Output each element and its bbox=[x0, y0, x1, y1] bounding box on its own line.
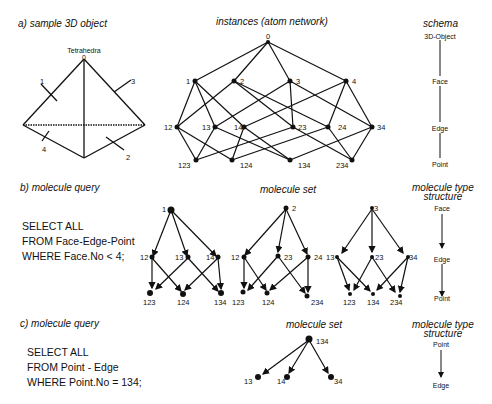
face-label-2: 2 bbox=[126, 153, 130, 162]
node-label: 134 bbox=[367, 298, 380, 307]
node-label: 13 bbox=[175, 253, 183, 262]
node-label: 23 bbox=[375, 253, 383, 262]
node-label: 234 bbox=[336, 161, 349, 170]
type-level: Face bbox=[434, 205, 450, 212]
type-level: Edge bbox=[434, 256, 450, 264]
schema-level: Edge bbox=[432, 125, 448, 133]
node-label: 123 bbox=[343, 298, 356, 307]
node-label: 3 bbox=[374, 204, 378, 213]
node-label: 23 bbox=[284, 253, 292, 262]
node-label: 23 bbox=[298, 123, 306, 132]
node-label: 1 bbox=[162, 205, 166, 214]
node-label: 134 bbox=[316, 337, 329, 346]
node-label: 2 bbox=[240, 77, 244, 86]
node-label: 3 bbox=[296, 77, 300, 86]
node-label: 13 bbox=[244, 377, 252, 386]
node-label: 14 bbox=[234, 123, 242, 132]
node-label: 13 bbox=[202, 123, 210, 132]
molecule-b-edges bbox=[152, 209, 408, 293]
node-label: 124 bbox=[262, 298, 275, 307]
type-level: Edge bbox=[433, 382, 449, 390]
apex-label: 0 bbox=[82, 54, 86, 61]
node-label: 4 bbox=[352, 77, 356, 86]
node-label: 13 bbox=[326, 253, 334, 262]
diagram-canvas: Tetrahedra 0 1 2 3 4 bbox=[0, 0, 492, 404]
node-label: 34 bbox=[334, 377, 342, 386]
schema-level: Face bbox=[432, 78, 448, 85]
node-label: 14 bbox=[206, 253, 214, 262]
face-label-4: 4 bbox=[42, 145, 46, 154]
node-label: 2 bbox=[292, 204, 296, 213]
node-label: 124 bbox=[240, 161, 253, 170]
node-label: 124 bbox=[177, 298, 190, 307]
tetrahedron bbox=[23, 59, 145, 158]
node-label: 123 bbox=[178, 161, 191, 170]
node-label: 14 bbox=[277, 377, 285, 386]
type-level: Point bbox=[434, 295, 450, 302]
node-label: 234 bbox=[311, 298, 324, 307]
face-label-3: 3 bbox=[131, 77, 135, 86]
type-level: Point bbox=[433, 341, 449, 348]
node-label: 134 bbox=[214, 298, 227, 307]
node-label: 0 bbox=[266, 32, 270, 41]
node-label: 34 bbox=[409, 253, 417, 262]
node-label: 24 bbox=[314, 253, 322, 262]
face-label-1: 1 bbox=[40, 77, 44, 86]
node-label: 34 bbox=[377, 123, 385, 132]
schema-level: 3D-Object bbox=[424, 33, 456, 41]
node-label: 12 bbox=[164, 123, 172, 132]
node-label: 12 bbox=[231, 253, 239, 262]
node-label: 12 bbox=[140, 253, 148, 262]
node-label: 234 bbox=[390, 298, 403, 307]
node-label: 24 bbox=[338, 123, 346, 132]
node-label: 1 bbox=[186, 77, 190, 86]
atom-network-edges bbox=[177, 42, 372, 160]
node-label: 123 bbox=[232, 298, 245, 307]
tetrahedra-label: Tetrahedra bbox=[67, 47, 101, 54]
node-label: 123 bbox=[143, 298, 156, 307]
schema-level: Point bbox=[432, 161, 448, 168]
node-label: 134 bbox=[298, 161, 311, 170]
